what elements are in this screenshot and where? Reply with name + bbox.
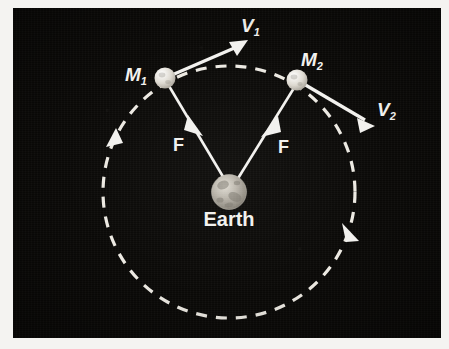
force-vector-f2 (237, 88, 294, 180)
label-earth: Earth (203, 208, 254, 230)
label-force-right: F (278, 137, 289, 157)
orbit-diagram-svg: M1 M2 V1 V2 F F Earth (13, 8, 441, 338)
label-m2: M2 (301, 49, 323, 72)
velocity-vector-v1 (165, 40, 248, 78)
label-force-left: F (173, 135, 184, 155)
force-vector-f1 (169, 86, 225, 180)
label-v1: V1 (241, 15, 260, 38)
earth-sphere (212, 175, 247, 210)
figure-page: M1 M2 V1 V2 F F Earth (0, 0, 449, 349)
label-v2: V2 (377, 99, 396, 122)
satellite-m1 (155, 68, 176, 89)
diagram-photo: M1 M2 V1 V2 F F Earth (13, 8, 441, 338)
label-m1: M1 (125, 64, 147, 87)
satellite-m2 (287, 70, 308, 91)
